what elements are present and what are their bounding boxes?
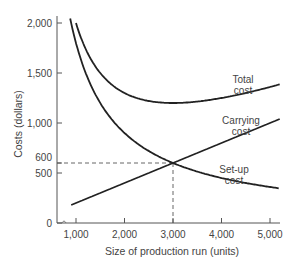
set-up-cost-label: Set-up [219,164,249,175]
x-tick-label: 4,000 [209,229,234,240]
set-up-cost-label: cost [225,175,244,186]
x-tick-label: 3,000 [160,229,185,240]
x-axis-title: Size of production run (units) [105,245,239,257]
curves [70,19,280,206]
carrying-cost-label: cost [232,126,251,137]
y-tick-label: 1,500 [27,68,52,79]
carrying-cost-label: Carrying [222,115,260,126]
cost-chart: 05006001,0001,5002,000 1,0002,0003,0004,… [0,0,297,268]
y-tick-label: 2,000 [27,18,52,29]
x-tick-label: 1,000 [63,229,88,240]
y-tick-label: 500 [35,168,52,179]
x-tick-label: 5,000 [257,229,282,240]
total-cost-label: cost [234,85,253,96]
y-tick-label: 600 [35,152,52,163]
total-cost-label: Total [232,74,253,85]
x-tick-label: 2,000 [112,229,137,240]
y-tick-label: 1,000 [27,118,52,129]
y-tick-label: 0 [46,218,52,229]
y-axis-title: Costs (dollars) [12,90,24,158]
reference-lines [57,163,173,223]
